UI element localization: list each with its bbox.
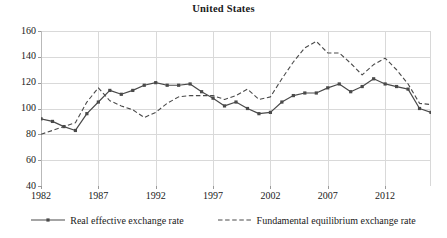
data-point-marker <box>131 89 134 92</box>
data-point-marker <box>97 100 100 103</box>
data-point-marker <box>74 129 77 132</box>
data-point-marker <box>143 84 146 87</box>
y-axis-tick-mark <box>38 57 41 58</box>
legend-label: Real effective exchange rate <box>70 215 183 226</box>
data-point-marker <box>361 85 364 88</box>
series-line-2 <box>41 41 431 134</box>
chart-title: United States <box>0 3 447 14</box>
data-point-marker <box>41 117 43 120</box>
y-axis-tick-mark <box>38 83 41 84</box>
x-axis-tick-mark <box>385 186 386 189</box>
data-point-marker <box>384 82 387 85</box>
y-axis-tick-label: 100 <box>8 102 36 113</box>
plot-area <box>41 31 431 186</box>
data-point-marker <box>280 100 283 103</box>
y-axis-tick-mark <box>38 134 41 135</box>
y-axis-tick-label: 60 <box>8 154 36 165</box>
legend-solid-line-icon <box>31 215 65 225</box>
data-point-marker <box>395 85 398 88</box>
data-point-marker <box>292 94 295 97</box>
x-axis-tick-mark <box>156 186 157 189</box>
data-point-marker <box>223 104 226 107</box>
legend-dashed-line-icon <box>218 215 252 225</box>
data-point-marker <box>166 84 169 87</box>
x-axis-tick-mark <box>328 186 329 189</box>
data-point-marker <box>154 81 157 84</box>
data-point-marker <box>429 111 431 114</box>
data-point-marker <box>315 91 318 94</box>
data-point-marker <box>406 88 409 91</box>
series-line-1 <box>41 79 431 131</box>
data-point-marker <box>418 107 421 110</box>
x-axis-tick-label: 2007 <box>308 190 348 201</box>
data-point-marker <box>200 90 203 93</box>
x-axis-tick-label: 1992 <box>136 190 176 201</box>
y-axis-tick-label: 120 <box>8 76 36 87</box>
data-point-marker <box>189 82 192 85</box>
data-point-marker <box>51 120 54 123</box>
series-lines <box>41 31 431 186</box>
data-point-marker <box>108 89 111 92</box>
data-point-marker <box>234 100 237 103</box>
data-point-marker <box>246 107 249 110</box>
data-point-marker <box>349 90 352 93</box>
data-point-marker <box>269 111 272 114</box>
y-axis-tick-label: 140 <box>8 50 36 61</box>
x-axis-tick-mark <box>270 186 271 189</box>
x-axis-tick-mark <box>213 186 214 189</box>
x-axis-tick-label: 2002 <box>250 190 290 201</box>
y-axis-tick-label: 80 <box>8 128 36 139</box>
data-point-marker <box>257 112 260 115</box>
data-point-marker <box>338 82 341 85</box>
x-axis-tick-label: 1987 <box>78 190 118 201</box>
legend-label: Fundamental equilibrium exchange rate <box>257 215 416 226</box>
x-axis-tick-mark <box>41 186 42 189</box>
x-axis-tick-label: 2012 <box>365 190 405 201</box>
chart-figure: United States Real effective exchange ra… <box>0 0 447 238</box>
legend-item-2[interactable]: Fundamental equilibrium exchange rate <box>218 215 416 226</box>
data-point-marker <box>177 84 180 87</box>
data-point-marker <box>211 97 214 100</box>
y-axis-tick-label: 160 <box>8 25 36 36</box>
y-axis-tick-label: 40 <box>8 180 36 191</box>
data-point-marker <box>326 86 329 89</box>
data-point-marker <box>85 112 88 115</box>
y-axis-tick-mark <box>38 31 41 32</box>
data-point-marker <box>372 77 375 80</box>
legend-item-1[interactable]: Real effective exchange rate <box>31 215 183 226</box>
x-axis-tick-label: 1997 <box>193 190 233 201</box>
x-axis-tick-mark <box>98 186 99 189</box>
data-point-marker <box>303 91 306 94</box>
x-axis-tick-label: 1982 <box>21 190 61 201</box>
chart-legend: Real effective exchange rateFundamental … <box>0 210 447 230</box>
y-axis-tick-mark <box>38 160 41 161</box>
data-point-marker <box>120 93 123 96</box>
y-axis-tick-mark <box>38 109 41 110</box>
